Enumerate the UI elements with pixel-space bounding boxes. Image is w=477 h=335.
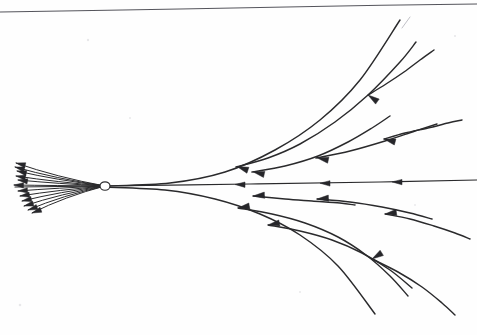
arrowhead: [392, 179, 402, 184]
focus-circle: [100, 182, 110, 190]
arrowhead: [18, 188, 28, 193]
page-rule: [0, 4, 477, 12]
lower-envelope-curve: [105, 187, 375, 314]
arrowhead: [320, 181, 330, 186]
arrowhead: [384, 139, 396, 145]
upper-streamline-group: [105, 20, 462, 186]
upper-curve-4: [316, 124, 437, 158]
fan-ray-12: [32, 186, 105, 213]
paper-speck: [454, 35, 456, 37]
arrowhead: [317, 157, 329, 163]
arrowhead: [235, 182, 245, 187]
arrowhead: [253, 171, 265, 177]
upper-envelope-curve: [105, 20, 400, 186]
upper-curve-6: [368, 50, 434, 95]
arrowhead: [20, 192, 30, 197]
paper-speck: [414, 204, 416, 206]
upper-curve-5: [384, 120, 462, 139]
paper-speck: [19, 304, 22, 307]
lower-curve-7: [372, 259, 455, 315]
corner-pen-mark: [402, 17, 410, 28]
streamline-diagram: [0, 0, 477, 335]
fan-ray-1: [16, 163, 105, 186]
paper-specks: [19, 35, 456, 306]
arrowhead: [253, 192, 265, 198]
paper-speck: [129, 117, 131, 119]
paper-speck: [87, 39, 89, 41]
corner-mark: [402, 17, 410, 28]
focus-point-circle: [100, 182, 110, 190]
upper-curve-3: [252, 116, 390, 172]
arrowhead: [24, 201, 34, 206]
upper-curve-2: [236, 42, 416, 167]
figure-page: [0, 0, 477, 335]
arrowhead: [372, 250, 383, 259]
paper-speck: [299, 291, 301, 293]
lower-curve-4: [268, 225, 412, 288]
arrowhead: [368, 95, 379, 104]
lower-streamline-group: [105, 187, 470, 315]
page-rule-line: [0, 4, 477, 12]
arrowhead: [22, 197, 32, 202]
arrowhead: [237, 167, 249, 174]
arrowhead: [317, 195, 329, 201]
